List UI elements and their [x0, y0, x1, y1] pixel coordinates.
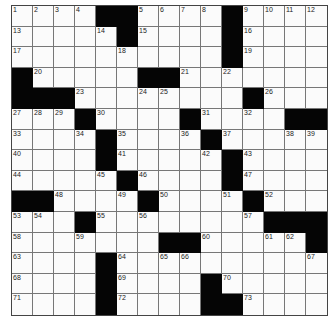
crossword-cell[interactable]	[138, 109, 159, 130]
crossword-cell[interactable]	[180, 212, 201, 233]
crossword-cell[interactable]	[54, 294, 75, 315]
crossword-cell[interactable]	[180, 274, 201, 295]
crossword-cell[interactable]	[306, 68, 327, 89]
crossword-cell[interactable]: 56	[138, 212, 159, 233]
crossword-cell[interactable]: 4	[75, 6, 96, 27]
crossword-cell[interactable]: 69	[117, 274, 138, 295]
crossword-cell[interactable]: 25	[159, 88, 180, 109]
crossword-cell[interactable]	[222, 253, 243, 274]
crossword-cell[interactable]	[54, 150, 75, 171]
crossword-cell[interactable]: 49	[117, 191, 138, 212]
crossword-cell[interactable]: 42	[201, 150, 222, 171]
crossword-cell[interactable]	[75, 294, 96, 315]
crossword-cell[interactable]	[180, 191, 201, 212]
crossword-cell[interactable]	[222, 233, 243, 254]
crossword-cell[interactable]: 11	[285, 6, 306, 27]
crossword-cell[interactable]	[96, 68, 117, 89]
crossword-cell[interactable]	[201, 253, 222, 274]
crossword-cell[interactable]	[201, 47, 222, 68]
crossword-cell[interactable]	[54, 274, 75, 295]
crossword-cell[interactable]	[285, 253, 306, 274]
crossword-cell[interactable]	[264, 171, 285, 192]
crossword-cell[interactable]	[96, 88, 117, 109]
crossword-cell[interactable]	[75, 171, 96, 192]
crossword-cell[interactable]: 41	[117, 150, 138, 171]
crossword-cell[interactable]: 31	[201, 109, 222, 130]
crossword-cell[interactable]	[96, 233, 117, 254]
crossword-cell[interactable]	[180, 27, 201, 48]
crossword-cell[interactable]: 16	[243, 27, 264, 48]
crossword-cell[interactable]: 70	[222, 274, 243, 295]
crossword-cell[interactable]: 37	[222, 130, 243, 151]
crossword-cell[interactable]	[243, 233, 264, 254]
crossword-cell[interactable]	[306, 47, 327, 68]
crossword-cell[interactable]	[201, 171, 222, 192]
crossword-cell[interactable]	[159, 150, 180, 171]
crossword-cell[interactable]	[243, 68, 264, 89]
crossword-cell[interactable]	[33, 253, 54, 274]
crossword-cell[interactable]: 17	[12, 47, 33, 68]
crossword-cell[interactable]: 2	[33, 6, 54, 27]
crossword-cell[interactable]: 36	[180, 130, 201, 151]
crossword-cell[interactable]	[96, 191, 117, 212]
crossword-cell[interactable]: 55	[96, 212, 117, 233]
crossword-cell[interactable]: 68	[12, 274, 33, 295]
crossword-cell[interactable]	[306, 171, 327, 192]
crossword-cell[interactable]: 38	[285, 130, 306, 151]
crossword-cell[interactable]	[138, 233, 159, 254]
crossword-cell[interactable]	[138, 253, 159, 274]
crossword-cell[interactable]: 64	[117, 253, 138, 274]
crossword-cell[interactable]: 62	[285, 233, 306, 254]
crossword-cell[interactable]	[285, 171, 306, 192]
crossword-cell[interactable]	[33, 274, 54, 295]
crossword-cell[interactable]: 34	[75, 130, 96, 151]
crossword-cell[interactable]: 18	[117, 47, 138, 68]
crossword-cell[interactable]	[54, 27, 75, 48]
crossword-cell[interactable]	[75, 274, 96, 295]
crossword-cell[interactable]	[33, 294, 54, 315]
crossword-cell[interactable]	[285, 150, 306, 171]
crossword-cell[interactable]	[222, 212, 243, 233]
crossword-cell[interactable]: 46	[138, 171, 159, 192]
crossword-cell[interactable]	[75, 47, 96, 68]
crossword-cell[interactable]	[159, 294, 180, 315]
crossword-cell[interactable]	[180, 47, 201, 68]
crossword-cell[interactable]	[117, 88, 138, 109]
crossword-cell[interactable]	[201, 27, 222, 48]
crossword-cell[interactable]	[159, 274, 180, 295]
crossword-cell[interactable]: 35	[117, 130, 138, 151]
crossword-cell[interactable]: 5	[138, 6, 159, 27]
crossword-cell[interactable]	[117, 68, 138, 89]
crossword-cell[interactable]	[306, 191, 327, 212]
crossword-cell[interactable]: 59	[75, 233, 96, 254]
crossword-cell[interactable]	[54, 68, 75, 89]
crossword-cell[interactable]: 54	[33, 212, 54, 233]
crossword-cell[interactable]	[285, 47, 306, 68]
crossword-cell[interactable]	[75, 253, 96, 274]
crossword-cell[interactable]: 24	[138, 88, 159, 109]
crossword-cell[interactable]: 10	[264, 6, 285, 27]
crossword-cell[interactable]	[201, 88, 222, 109]
crossword-cell[interactable]	[54, 47, 75, 68]
crossword-cell[interactable]: 67	[306, 253, 327, 274]
crossword-cell[interactable]: 3	[54, 6, 75, 27]
crossword-cell[interactable]: 48	[54, 191, 75, 212]
crossword-cell[interactable]	[159, 171, 180, 192]
crossword-cell[interactable]	[138, 47, 159, 68]
crossword-cell[interactable]: 60	[201, 233, 222, 254]
crossword-cell[interactable]	[159, 130, 180, 151]
crossword-cell[interactable]	[306, 274, 327, 295]
crossword-cell[interactable]: 23	[75, 88, 96, 109]
crossword-cell[interactable]: 58	[12, 233, 33, 254]
crossword-cell[interactable]: 61	[264, 233, 285, 254]
crossword-cell[interactable]: 50	[159, 191, 180, 212]
crossword-cell[interactable]: 44	[12, 171, 33, 192]
crossword-cell[interactable]	[201, 212, 222, 233]
crossword-cell[interactable]: 19	[243, 47, 264, 68]
crossword-cell[interactable]: 30	[96, 109, 117, 130]
crossword-cell[interactable]	[75, 27, 96, 48]
crossword-cell[interactable]	[75, 150, 96, 171]
crossword-cell[interactable]	[306, 27, 327, 48]
crossword-cell[interactable]	[306, 294, 327, 315]
crossword-cell[interactable]	[138, 150, 159, 171]
